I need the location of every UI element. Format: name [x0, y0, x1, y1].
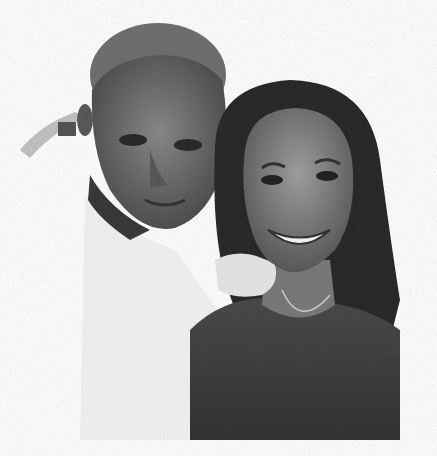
- photo: Selfie of an elderly man and a smiling y…: [0, 0, 437, 456]
- photo-illustration: [0, 0, 437, 456]
